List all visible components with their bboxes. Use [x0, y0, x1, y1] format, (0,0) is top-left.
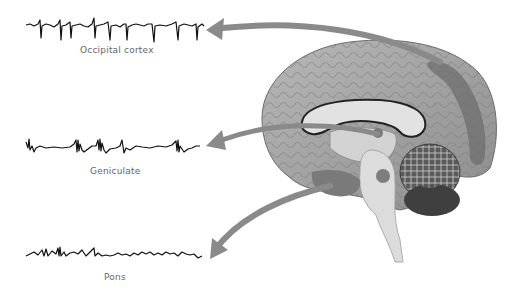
cerebellum — [400, 144, 460, 216]
trace-pons — [26, 247, 202, 258]
pons-marker — [376, 169, 390, 183]
sleep-eeg-figure — [0, 0, 517, 289]
arrow-pons — [215, 186, 330, 250]
label-occipital-cortex: Occipital cortex — [80, 45, 154, 55]
label-geniculate: Geniculate — [90, 166, 140, 176]
label-pons: Pons — [104, 272, 126, 282]
trace-occipital — [26, 18, 204, 42]
brain-illustration — [262, 40, 496, 262]
trace-geniculate — [26, 139, 200, 153]
